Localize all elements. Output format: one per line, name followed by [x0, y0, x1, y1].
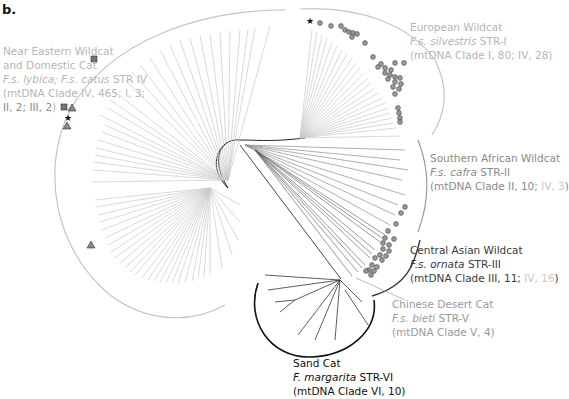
- central-asian-branches: [255, 150, 385, 276]
- near-eastern-label: Near Eastern Wildcat and Domestic Cat F.…: [3, 44, 147, 114]
- black-star-marker: ★: [306, 16, 314, 26]
- grey-triangle-marker: [87, 241, 95, 248]
- european-branches: [300, 30, 400, 138]
- chinese-desert-label: Chinese Desert Cat F.s. bieti STR-V (mtD…: [392, 297, 495, 339]
- european-label: European Wildcat F.s. silvestris STR-I (…: [410, 20, 552, 62]
- southern-african-branches: [245, 145, 408, 225]
- sand-cat-branches: [265, 275, 368, 340]
- southern-african-clade-arc: [418, 140, 427, 232]
- sand-cat-label: Sand Cat F. margarita STR-VI (mtDNA Clad…: [293, 356, 405, 398]
- central-asian-label: Central Asian Wildcat F.s. ornata STR-II…: [410, 243, 559, 285]
- sand-cat-clade-arc: [255, 283, 375, 357]
- black-star-marker: ★: [64, 113, 72, 123]
- southern-central-circle-markers: [364, 205, 408, 278]
- southern-african-label: Southern African Wildcat F.s. cafra STR-…: [430, 151, 569, 193]
- near-eastern-lower-branches: [95, 188, 240, 283]
